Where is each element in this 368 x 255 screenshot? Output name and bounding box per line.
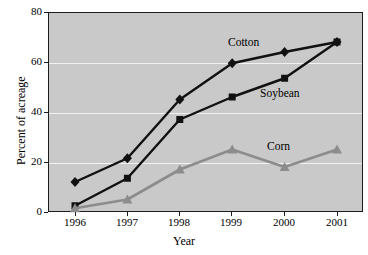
chart-figure: 80 60 40 20 0 1996 1997 1998 1999 2000 2…	[0, 0, 368, 255]
ytick-mark-40	[44, 112, 48, 113]
gridline-40	[49, 113, 362, 114]
ytick-label-80: 80	[16, 6, 42, 17]
ytick-label-0: 0	[16, 206, 42, 217]
ytick-mark-60	[44, 62, 48, 63]
gridline-20	[49, 163, 362, 164]
series-label-soybean: Soybean	[260, 87, 300, 99]
plot-area	[48, 12, 363, 212]
y-axis-label: Percent of acreage	[14, 76, 29, 165]
series-label-cotton: Cotton	[228, 36, 259, 48]
xtick-label-1998: 1998	[156, 216, 202, 228]
xtick-label-1996: 1996	[52, 216, 98, 228]
x-axis-label: Year	[0, 234, 368, 249]
ytick-mark-20	[44, 162, 48, 163]
xtick-label-2000: 2000	[261, 216, 307, 228]
xtick-label-1999: 1999	[208, 216, 254, 228]
ytick-mark-0	[44, 212, 48, 213]
ytick-label-60: 60	[16, 56, 42, 67]
gridline-60	[49, 63, 362, 64]
xtick-label-1997: 1997	[104, 216, 150, 228]
series-label-corn: Corn	[267, 140, 290, 152]
ytick-mark-80	[44, 12, 48, 13]
xtick-label-2001: 2001	[314, 216, 360, 228]
